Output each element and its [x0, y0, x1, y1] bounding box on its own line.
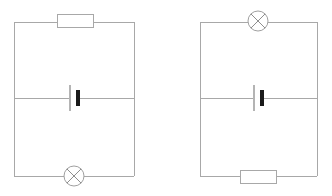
resistor-body [241, 171, 277, 184]
right-resistor[interactable] [241, 171, 277, 184]
right-lamp[interactable] [248, 11, 268, 31]
circuit-diagram-canvas: Two electric circuit diagrams [0, 0, 332, 196]
right-circuit [0, 0, 332, 196]
right-cell[interactable] [254, 85, 262, 111]
right-circuit-wires [200, 22, 317, 176]
